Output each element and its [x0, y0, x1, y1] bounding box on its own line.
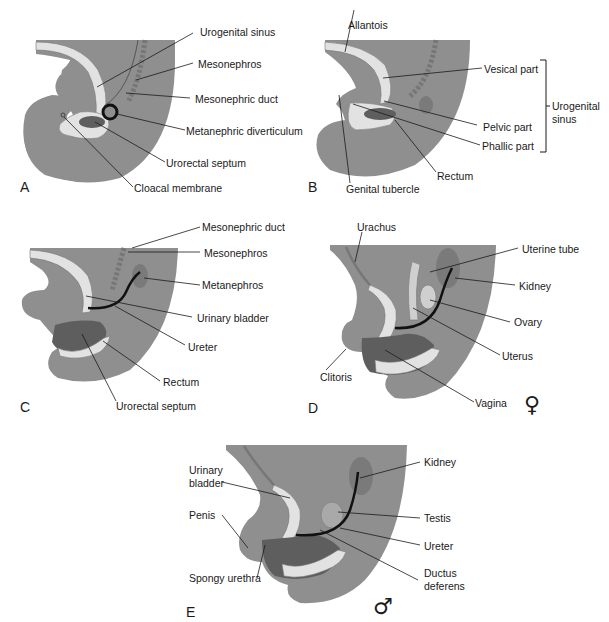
label-urachus: Urachus: [357, 221, 396, 233]
label-mesonephros: Mesonephros: [198, 58, 262, 70]
label-ureter-e: Ureter: [424, 540, 453, 552]
label-clitoris: Clitoris: [320, 371, 352, 383]
panel-d-illustration: [326, 232, 518, 402]
label-ductus-deferens-line2: deferens: [424, 580, 465, 592]
panel-letter-e: E: [186, 604, 195, 620]
label-urogenital-sinus: Urogenital sinus: [200, 26, 275, 38]
label-ovary: Ovary: [514, 316, 542, 328]
panel-b-illustration: [317, 10, 551, 183]
label-genital-tubercle: Genital tubercle: [346, 183, 420, 195]
label-allantois: Allantois: [348, 19, 388, 31]
label-penis: Penis: [189, 509, 215, 521]
label-uterine-tube: Uterine tube: [522, 243, 579, 255]
label-urinary-bladder-c: Urinary bladder: [197, 312, 269, 324]
label-rectum-c: Rectum: [163, 376, 199, 388]
label-urorectal-septum-c: Urorectal septum: [116, 400, 196, 412]
label-rectum: Rectum: [437, 170, 473, 182]
label-urogenital-sinus-bracket-line1: Urogenital: [552, 100, 600, 112]
label-kidney-d: Kidney: [519, 280, 551, 292]
label-spongy-urethra: Spongy urethra: [189, 572, 261, 584]
panel-c-illustration: [22, 227, 200, 401]
label-metanephros: Metanephros: [202, 279, 263, 291]
label-urinary-bladder-e-line1: Urinary: [189, 464, 223, 476]
panel-letter-d: D: [308, 400, 318, 416]
label-vagina: Vagina: [475, 397, 507, 409]
label-mesonephric-duct-c: Mesonephric duct: [202, 221, 285, 233]
label-ureter-c: Ureter: [188, 341, 217, 353]
panel-letter-c: C: [20, 399, 30, 415]
label-pelvic-part: Pelvic part: [483, 121, 532, 133]
label-urorectal-septum: Urorectal septum: [166, 157, 246, 169]
label-metanephric-diverticulum: Metanephric diverticulum: [186, 125, 303, 137]
label-cloacal-membrane: Cloacal membrane: [134, 182, 222, 194]
label-kidney-e: Kidney: [424, 456, 456, 468]
male-symbol-icon: ♂: [373, 596, 393, 618]
label-ductus-deferens-line1: Ductus: [424, 567, 457, 579]
label-testis: Testis: [424, 512, 451, 524]
label-phallic-part: Phallic part: [482, 140, 534, 152]
label-urogenital-sinus-bracket-line2: sinus: [552, 113, 577, 125]
female-symbol-icon: ♀: [524, 394, 540, 416]
label-urinary-bladder-e-line2: bladder: [189, 477, 224, 489]
panel-letter-a: A: [20, 179, 29, 195]
label-vesical-part: Vesical part: [484, 63, 538, 75]
label-uterus: Uterus: [502, 350, 533, 362]
label-mesonephros-c: Mesonephros: [204, 247, 268, 259]
label-mesonephric-duct: Mesonephric duct: [195, 93, 278, 105]
embryology-diagram: [0, 0, 609, 622]
panel-letter-b: B: [308, 179, 317, 195]
